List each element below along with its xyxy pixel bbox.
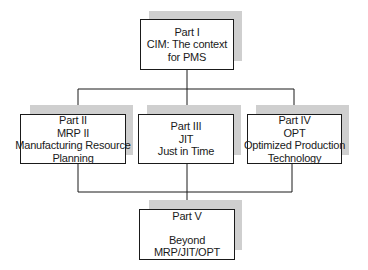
node-part3: Part III JIT Just in Time [138, 114, 234, 164]
part1-subtitle-2: for PMS [168, 51, 206, 64]
part3-name: Just in Time [158, 145, 214, 158]
part2-name-2: Planning [52, 152, 93, 165]
node-part5: Part V Beyond MRP/JIT/OPT [139, 209, 235, 260]
part5-name: Beyond [169, 234, 205, 247]
part4-abbrev: OPT [283, 127, 305, 140]
part3-abbrev: JIT [179, 133, 194, 146]
part3-title: Part III [171, 120, 202, 133]
part2-name: Manufacturing Resource [15, 139, 130, 152]
part4-name: Optimized Production [244, 139, 345, 152]
part4-name-2: Technology [268, 152, 322, 165]
part4-title: Part IV [278, 114, 310, 127]
part5-title: Part V [172, 210, 201, 223]
part5-name-2: MRP/JIT/OPT [154, 246, 220, 259]
node-part2: Part II MRP II Manufacturing Resource Pl… [20, 114, 126, 164]
part1-title: Part I [174, 26, 199, 39]
part2-title: Part II [59, 114, 87, 127]
node-part4: Part IV OPT Optimized Production Technol… [247, 114, 342, 164]
part2-abbrev: MRP II [57, 127, 89, 140]
node-part1: Part I CIM: The context for PMS [140, 19, 234, 70]
part1-subtitle: CIM: The context [147, 38, 227, 51]
